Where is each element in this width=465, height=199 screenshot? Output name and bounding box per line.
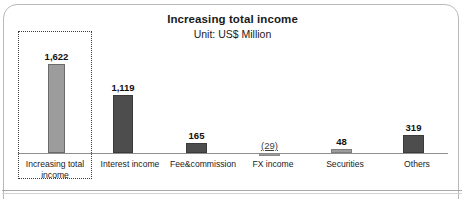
category-label: FX income xyxy=(238,159,308,170)
bar-value-label: (29) xyxy=(241,140,298,151)
category-label: Interest income xyxy=(94,159,166,170)
axis-baseline xyxy=(18,153,448,154)
bar xyxy=(259,153,280,156)
category-label: Fee&commission xyxy=(163,159,243,170)
page-title: Increasing total income xyxy=(0,13,465,27)
footer-divider xyxy=(2,190,462,191)
bar-value-label: 165 xyxy=(168,130,225,141)
bar xyxy=(331,149,352,153)
bar-value-label: 319 xyxy=(385,122,442,133)
footer-divider-secondary xyxy=(2,193,462,194)
bar xyxy=(113,95,133,153)
bar-value-label: 1,119 xyxy=(95,82,151,93)
bar-chart: Increasing total income Unit: US$ Millio… xyxy=(0,0,465,199)
bar xyxy=(403,135,424,153)
bar xyxy=(186,143,207,153)
bar-value-label: 1,622 xyxy=(30,51,83,62)
category-label: Increasing total income xyxy=(19,159,91,180)
bar xyxy=(48,64,65,153)
category-label: Others xyxy=(382,159,452,170)
category-label: Securities xyxy=(310,159,380,170)
bar-value-label: 48 xyxy=(313,136,370,147)
